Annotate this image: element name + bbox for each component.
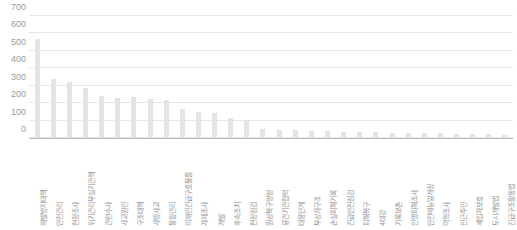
x-label-slot: 사고원인 [114, 140, 122, 228]
x-label-slot: 긴급안전점검 [340, 140, 348, 228]
x-label-slot: 안전관리 [49, 140, 57, 228]
bar[interactable] [277, 130, 282, 138]
y-tick-label: 100 [0, 108, 26, 117]
bar[interactable] [325, 131, 330, 138]
x-label-slot: 피해복구 [356, 140, 364, 228]
x-label-slot: 인근주민 [453, 140, 461, 228]
x-label-slot: 위기관리부실기관책 [81, 140, 89, 228]
y-tick-label: 700 [0, 3, 26, 12]
x-tick-label: 사고원인 [121, 202, 129, 226]
x-tick-label: 재발방지대책 [40, 190, 48, 226]
x-tick-label: 이재민긴급구호물품 [185, 172, 193, 226]
bar[interactable] [67, 82, 72, 138]
bar[interactable] [212, 113, 217, 138]
x-tick-label: 자체조사 [201, 202, 209, 226]
x-label-slot: 후속조치 [227, 140, 235, 228]
x-tick-label: 사망사고 [153, 202, 161, 226]
bar[interactable] [196, 112, 201, 138]
x-tick-label: 현장점검 [250, 202, 258, 226]
x-label-slot: 인명피해조사 [404, 140, 412, 228]
bar[interactable] [293, 130, 298, 138]
bars-layer [29, 16, 513, 138]
x-tick-label: 관련수사 [105, 202, 113, 226]
x-label-slot: 원상복구명령 [259, 140, 267, 228]
x-tick-label: 유관기관협력 [282, 190, 290, 226]
x-tick-label: 역학조사 [443, 202, 451, 226]
bar[interactable] [35, 39, 40, 138]
x-label-slot: 부상자구조 [307, 140, 315, 228]
x-tick-label: 구조대책 [137, 202, 145, 226]
x-tick-label: 현장조사 [72, 202, 80, 226]
x-tick-label: 대응단계 [298, 202, 306, 226]
y-tick-label: 500 [0, 38, 26, 47]
x-label-slot: 사망사고 [146, 140, 154, 228]
bar[interactable] [115, 98, 120, 138]
x-label-slot: 통합관리 [162, 140, 170, 228]
x-tick-label: 긴급안전점검 [347, 190, 355, 226]
x-label-slot: 자체조사 [194, 140, 202, 228]
y-axis: 0100200300400500600700 [0, 16, 26, 138]
x-tick-label: 4대강 [379, 210, 387, 226]
x-tick-label: 부상자구조 [314, 196, 322, 226]
bar[interactable] [99, 96, 104, 138]
y-tick-label: 200 [0, 90, 26, 99]
x-label-slot: 이재민긴급구호물품 [178, 140, 186, 228]
x-tick-label: 개발 [218, 214, 226, 226]
x-label-slot: 긴급구조활동법 [501, 140, 509, 228]
bar[interactable] [83, 88, 88, 138]
x-tick-label: 후속조치 [234, 202, 242, 226]
x-tick-label: 기록보존 [395, 202, 403, 226]
y-tick-label: 300 [0, 73, 26, 82]
x-label-slot: 기록보존 [388, 140, 396, 228]
x-label-slot: 손실피해기록 [323, 140, 331, 228]
x-tick-label: 통합관리 [169, 202, 177, 226]
bar[interactable] [51, 79, 56, 138]
x-label-slot: 재발방지대책 [33, 140, 41, 228]
x-tick-label: 긴급구조활동법 [508, 184, 516, 226]
bar[interactable] [148, 99, 153, 138]
x-label-slot: 현장조사 [65, 140, 73, 228]
x-tick-label: 위기관리부실기관책 [88, 172, 96, 226]
y-tick-label: 0 [0, 125, 26, 134]
x-tick-label: 안전매뉴얼개정 [427, 184, 435, 226]
bar[interactable] [228, 118, 233, 138]
y-tick-label: 600 [0, 20, 26, 29]
y-tick-label: 400 [0, 55, 26, 64]
x-label-slot: 세입자보호 [469, 140, 477, 228]
x-label-slot: 개발 [211, 140, 219, 228]
x-tick-label: 원상복구명령 [266, 190, 274, 226]
x-tick-label: 손실피해기록 [330, 190, 338, 226]
bar[interactable] [309, 131, 314, 138]
bar[interactable] [244, 120, 249, 138]
x-label-slot: 현장점검 [243, 140, 251, 228]
x-label-slot: 대응단계 [291, 140, 299, 228]
x-axis-labels: 재발방지대책안전관리현장조사위기관리부실기관책관련수사사고원인구조대책사망사고통… [29, 140, 513, 228]
x-tick-label: 인근주민 [460, 202, 468, 226]
x-tick-label: 인명피해조사 [411, 190, 419, 226]
bar[interactable] [131, 97, 136, 138]
bar[interactable] [164, 100, 169, 138]
x-label-slot: 도시개발법 [485, 140, 493, 228]
x-tick-label: 세입자보호 [476, 196, 484, 226]
x-label-slot: 구조대책 [130, 140, 138, 228]
x-label-slot: 역학조사 [436, 140, 444, 228]
bar[interactable] [260, 129, 265, 138]
x-tick-label: 안전관리 [56, 202, 64, 226]
bar[interactable] [180, 109, 185, 138]
x-tick-label: 도시개발법 [492, 196, 500, 226]
x-label-slot: 4대강 [372, 140, 380, 228]
x-label-slot: 관련수사 [98, 140, 106, 228]
x-label-slot: 유관기관협력 [275, 140, 283, 228]
x-axis-baseline [29, 138, 513, 139]
x-tick-label: 피해복구 [363, 202, 371, 226]
bar-chart: 0100200300400500600700 재발방지대책안전관리현장조사위기관… [0, 0, 517, 230]
x-label-slot: 안전매뉴얼개정 [420, 140, 428, 228]
